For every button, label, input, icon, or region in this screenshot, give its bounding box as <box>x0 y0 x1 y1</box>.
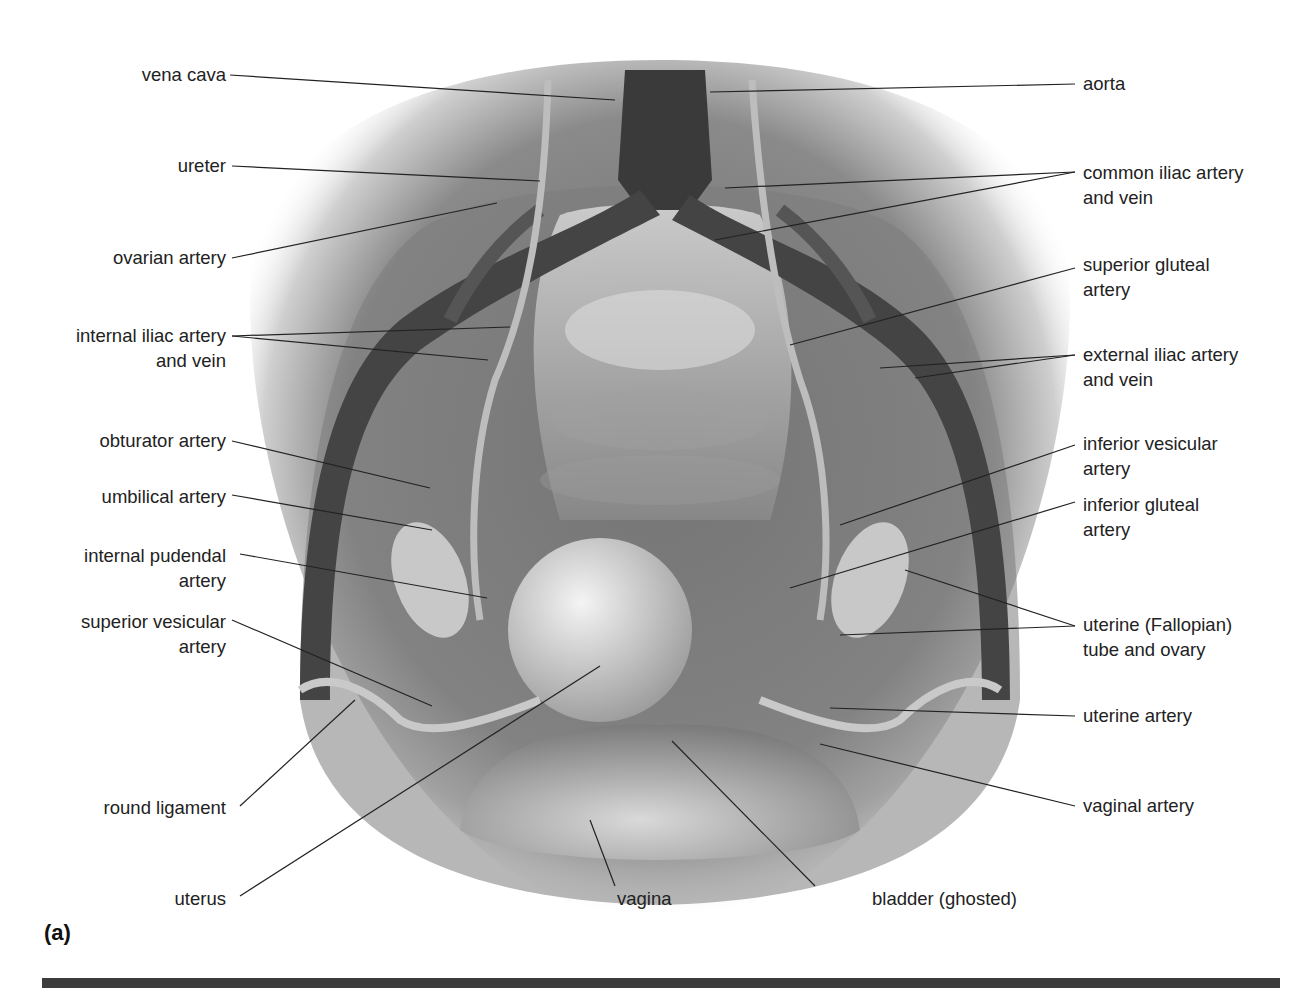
label-vena-cava: vena cava <box>142 62 226 87</box>
label-round-ligament: round ligament <box>104 795 226 820</box>
label-superior-gluteal: superior glutealartery <box>1083 252 1210 302</box>
label-ureter: ureter <box>178 153 226 178</box>
label-inferior-gluteal: inferior glutealartery <box>1083 492 1199 542</box>
label-vaginal-artery: vaginal artery <box>1083 793 1194 818</box>
label-uterine-tube-ovary: uterine (Fallopian)tube and ovary <box>1083 612 1232 662</box>
label-vagina: vagina <box>617 886 672 911</box>
bottom-divider <box>42 978 1280 988</box>
label-uterine-artery: uterine artery <box>1083 703 1192 728</box>
label-aorta: aorta <box>1083 71 1125 96</box>
label-bladder: bladder (ghosted) <box>872 886 1017 911</box>
label-internal-pudendal: internal pudendalartery <box>84 543 226 593</box>
label-umbilical-artery: umbilical artery <box>102 484 226 509</box>
label-obturator-artery: obturator artery <box>100 428 226 453</box>
label-internal-iliac: internal iliac arteryand vein <box>76 323 226 373</box>
label-inferior-vesicular: inferior vesicularartery <box>1083 431 1218 481</box>
label-ovarian-artery: ovarian artery <box>113 245 226 270</box>
label-superior-vesicular: superior vesicularartery <box>81 609 226 659</box>
anatomy-figure: vena cava ureter ovarian artery internal… <box>0 0 1308 992</box>
uterus-shape <box>508 538 692 722</box>
label-common-iliac: common iliac arteryand vein <box>1083 160 1243 210</box>
label-external-iliac: external iliac arteryand vein <box>1083 342 1238 392</box>
label-uterus: uterus <box>175 886 226 911</box>
panel-label: (a) <box>44 920 71 946</box>
aorta-vessel <box>618 70 712 210</box>
